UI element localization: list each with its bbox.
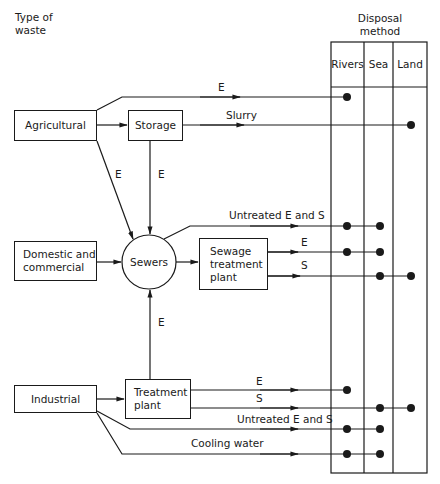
box-storage: Storage xyxy=(128,110,183,141)
box-label: Industrial xyxy=(31,393,80,406)
label-cooling-water: Cooling water xyxy=(191,437,264,450)
label-agri-e: E xyxy=(218,81,225,94)
flow-agri-e xyxy=(97,97,347,110)
box-label: treatment xyxy=(210,258,267,271)
heading-line: Disposal xyxy=(340,12,420,25)
flow-agri-sewers xyxy=(97,141,133,239)
column-sea: Sea xyxy=(364,58,393,71)
label-sewers-untreated: Untreated E and S xyxy=(229,209,325,222)
sewers-label: Sewers xyxy=(130,256,168,269)
column-land: Land xyxy=(393,58,427,71)
heading-line: waste xyxy=(15,24,53,37)
column-rivers: Rivers xyxy=(331,58,364,71)
box-sewage-treatment-plant: Sewage treatment plant xyxy=(199,238,268,290)
heading-line: Type of xyxy=(15,11,53,24)
box-industrial: Industrial xyxy=(14,385,97,413)
label-agri-sewers-e: E xyxy=(115,168,122,181)
heading-disposal-method: Disposal method xyxy=(340,12,420,38)
box-label: plant xyxy=(210,271,267,284)
label-treatment-e: E xyxy=(256,375,263,388)
label-plant-e: E xyxy=(301,236,308,249)
box-label: Agricultural xyxy=(25,119,86,132)
box-label: commercial xyxy=(23,261,96,274)
label-treatment-s: S xyxy=(256,392,263,405)
box-label: Treatment xyxy=(134,386,190,399)
box-label: Domestic and xyxy=(23,248,96,261)
label-slurry: Slurry xyxy=(226,109,257,122)
box-label: Storage xyxy=(135,119,176,132)
label-plant-s: S xyxy=(301,259,308,272)
label-industrial-untreated: Untreated E and S xyxy=(237,413,333,426)
label-treatment-sewers-e: E xyxy=(158,316,165,329)
box-treatment-plant: Treatment plant xyxy=(125,379,191,419)
label-storage-sewers-e: E xyxy=(158,168,165,181)
box-domestic-commercial: Domestic and commercial xyxy=(14,241,97,281)
box-agricultural: Agricultural xyxy=(14,110,97,141)
heading-line: method xyxy=(340,25,420,38)
box-label: Sewage xyxy=(210,245,267,258)
heading-type-of-waste: Type of waste xyxy=(15,11,53,37)
box-label: plant xyxy=(134,399,190,412)
